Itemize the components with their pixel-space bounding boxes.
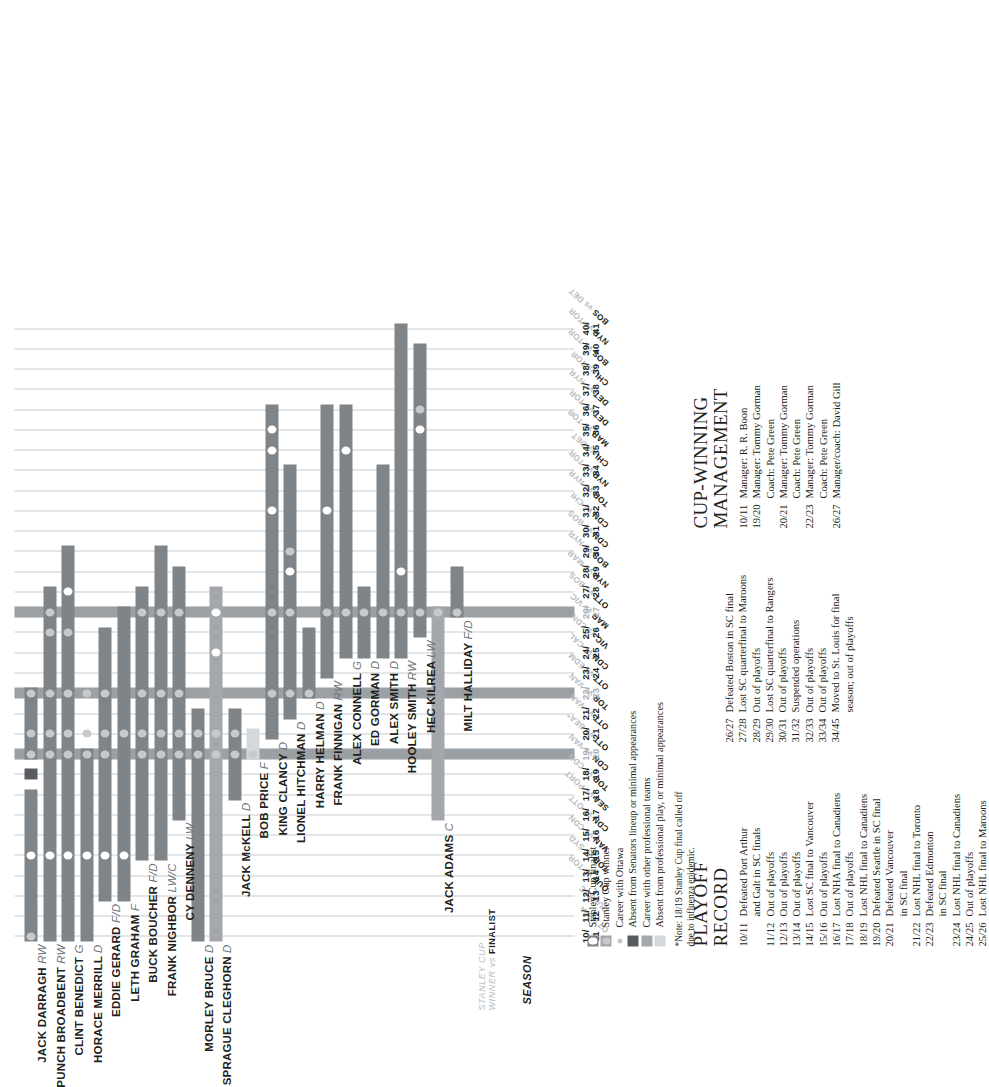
cup-finalist-marker	[359, 608, 368, 616]
player-bar	[80, 318, 93, 946]
management-year: 22/23	[802, 498, 815, 528]
playoff-record-title: PLAYOFF RECORD	[690, 750, 730, 946]
playoff-record-entry: 31/32Suspended operations	[788, 546, 801, 742]
playoff-record-entry-continued: in SC final	[896, 750, 909, 946]
player-name-label: ALEX SMITH D	[387, 660, 399, 744]
playoff-record-year: 22/23	[922, 916, 935, 946]
cup-finalist-marker	[174, 608, 183, 616]
cup-finalist-marker	[82, 729, 91, 737]
legend-label: Stanley Cup finalist	[586, 846, 597, 927]
cup-finalist-marker	[26, 689, 35, 697]
legend-pip	[617, 938, 622, 943]
sc-winner-word: WINNER	[486, 970, 496, 1010]
legend-item: Absent from Senators lineup or minimal a…	[626, 646, 639, 946]
playoff-record-year: 32/33	[802, 712, 815, 742]
cup-winner-marker	[341, 446, 350, 454]
cup-finalist-marker	[174, 689, 183, 697]
cup-winner-marker	[267, 446, 276, 454]
player-bar	[283, 318, 296, 946]
cup-winner-marker	[267, 506, 276, 514]
playoff-record-year: 24/25	[962, 916, 975, 946]
player-bar	[376, 318, 389, 946]
cup-winning-management-panel: CUP-WINNING MANAGEMENT 10/11Manager: R. …	[690, 313, 842, 528]
player-bar	[135, 318, 148, 946]
cup-finalist-marker	[452, 608, 461, 616]
career-segment	[24, 687, 37, 759]
season-label: 40/41	[580, 314, 600, 342]
playoff-record-entry: 21/22Lost NHL final to Toronto	[909, 750, 922, 946]
career-segment	[209, 586, 222, 941]
legend-item: Absent from professional play, or minima…	[653, 646, 666, 946]
career-segment	[80, 748, 93, 941]
career-segment	[24, 789, 37, 942]
playoff-record-panel-continued: 26/27Defeated Boston in SC final27/28Los…	[690, 546, 855, 742]
cup-finalist-marker	[193, 750, 202, 758]
player-name-label: KING CLANCY D	[276, 741, 288, 835]
player-bar	[265, 318, 278, 946]
cup-finalist-marker	[230, 750, 239, 758]
cup-finalist-marker	[193, 729, 202, 737]
management-year: 26/27	[829, 498, 842, 528]
cup-finalist-marker	[285, 608, 294, 616]
cup-winner-marker	[100, 851, 109, 859]
career-segment	[98, 627, 111, 901]
cup-finalist-marker	[63, 729, 72, 737]
legend-swatch	[587, 935, 598, 946]
cup-winner-marker	[267, 425, 276, 433]
player-name-label: HORACE MERRILL D	[91, 944, 103, 1063]
player-name-label: FRANK FINNIGAN RW	[331, 681, 343, 806]
career-segment	[302, 627, 315, 699]
playoff-record-year: 21/22	[909, 916, 922, 946]
cup-finalist-marker	[378, 608, 387, 616]
cup-finalist-marker	[119, 729, 128, 737]
playoff-record-entry: 15/16Out of playoffs	[816, 750, 829, 946]
playoff-record-year: 26/27	[722, 712, 735, 742]
management-title: CUP-WINNING MANAGEMENT	[690, 313, 730, 528]
playoff-record-year: 34/45	[828, 712, 841, 742]
playoff-record-entry: 10/11Defeated Port Arthur	[736, 750, 749, 946]
playoff-record-entry-continued: season; out of playoffs	[842, 546, 855, 742]
cup-finalist-marker	[100, 689, 109, 697]
playoff-record-entry-continued: and Galt in SC finals	[749, 750, 762, 946]
player-name-label: JACK DARRAGH RW	[35, 944, 47, 1062]
playoff-record-entry: 22/23Defeated Edmonton	[922, 750, 935, 946]
legend-label: Absent from professional play, or minima…	[653, 702, 664, 927]
playoff-record-entry: 11/12Out of playoffs	[763, 750, 776, 946]
cup-winner-marker	[396, 567, 405, 575]
cup-winner-marker	[211, 648, 220, 656]
legend-label: Stanley Cup winner	[599, 846, 610, 927]
career-segment	[320, 404, 333, 678]
playoff-record-entry-continued: in SC final	[935, 750, 948, 946]
playoff-record-entry: 30/31Out of playoffs	[775, 546, 788, 742]
sc-vs-word: vs	[486, 957, 496, 967]
career-segment	[135, 586, 148, 860]
management-entry: 10/11Manager: R. R. Boon	[736, 313, 749, 528]
playoff-record-title-line1: PLAYOFF	[689, 861, 710, 946]
player-bar	[302, 318, 315, 946]
player-name-label: HEC KILREA LW	[424, 640, 436, 732]
career-segment	[394, 323, 407, 658]
player-name-label: LIONEL HITCHMAN D	[294, 721, 306, 842]
legend-label: Career with Ottawa	[613, 847, 624, 927]
player-bar	[117, 318, 130, 946]
cup-winner-marker	[26, 851, 35, 859]
cup-finalist-marker	[137, 689, 146, 697]
management-entry: 22/23Manager: Tommy Gorman	[802, 313, 815, 528]
cup-finalist-marker	[45, 729, 54, 737]
cup-finalist-marker	[156, 729, 165, 737]
cup-finalist-marker	[26, 729, 35, 737]
player-name-label: MORLEY BRUCE D	[202, 944, 214, 1051]
cup-winner-marker	[211, 608, 220, 616]
management-title-line1: CUP-WINNING	[689, 396, 710, 528]
cup-finalist-marker	[267, 689, 276, 697]
cup-finalist-marker	[156, 689, 165, 697]
cup-finalist-marker	[45, 750, 54, 758]
playoff-record-entry: 19/20Defeated Seattle in SC final	[869, 750, 882, 946]
legend-item: Career with other professional teams	[640, 646, 653, 946]
cup-finalist-marker	[100, 750, 109, 758]
cup-finalist-marker	[285, 547, 294, 555]
playoff-record-year: 19/20	[869, 916, 882, 946]
playoff-record-entry: 17/18Out of playoffs	[842, 750, 855, 946]
playoff-record-year: 11/12	[763, 916, 776, 946]
